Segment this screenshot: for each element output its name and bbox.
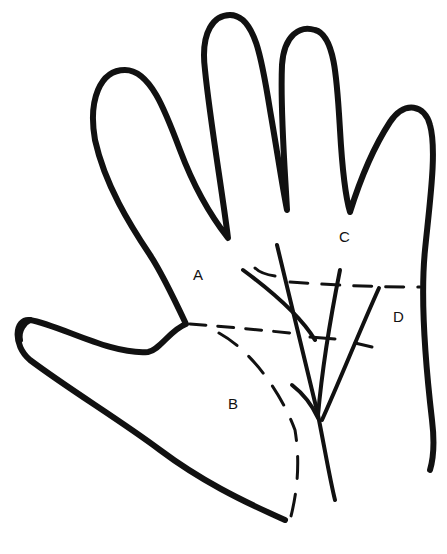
line-d [322, 288, 379, 420]
line-c [318, 270, 340, 415]
label-d: D [393, 308, 404, 325]
dashed-line-middle [190, 324, 300, 334]
palm-diagram: A B C D [0, 0, 447, 554]
hand-drawing [0, 0, 447, 554]
label-b: B [228, 395, 238, 412]
dashed-line-upper [290, 282, 420, 287]
hand-outline [18, 15, 434, 520]
label-c: C [339, 228, 350, 245]
label-a: A [193, 266, 203, 283]
